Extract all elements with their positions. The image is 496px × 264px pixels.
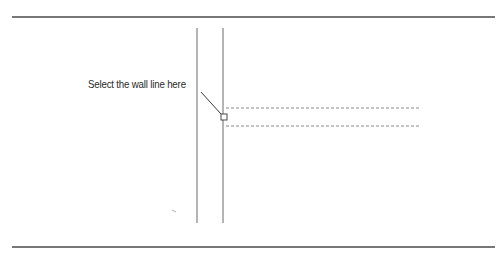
leader-line: [201, 92, 221, 114]
pickbox-icon: [221, 114, 227, 120]
stray-mark: [172, 210, 176, 212]
drawing-canvas: [0, 0, 496, 264]
callout-label: Select the wall line here: [88, 78, 186, 90]
